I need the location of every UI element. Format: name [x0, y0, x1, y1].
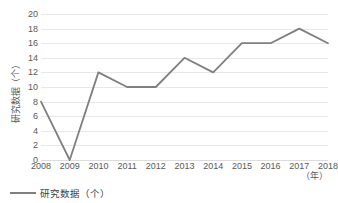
x-axis-tick-label: 2015	[232, 162, 252, 171]
y-axis-tick-label: 6	[20, 112, 38, 121]
series-line-research-data	[41, 29, 328, 160]
y-axis-tick-label: 10	[20, 83, 38, 92]
y-axis-tick-label: 2	[20, 141, 38, 150]
plot-area	[41, 14, 328, 160]
x-axis-tick-label: 2013	[174, 162, 194, 171]
x-axis-tick-label: 2008	[31, 162, 51, 171]
series-line-layer	[41, 14, 328, 160]
y-axis-tick-labels: 20181614121086420	[20, 14, 38, 160]
legend: 研究数据（个）	[10, 189, 110, 199]
legend-item-label: 研究数据（个）	[40, 189, 110, 199]
y-axis-tick-label: 18	[20, 24, 38, 33]
y-axis-tick-label: 16	[20, 39, 38, 48]
y-axis-tick-label: 4	[20, 126, 38, 135]
y-axis-tick-label: 12	[20, 68, 38, 77]
x-axis-tick-label: 2009	[60, 162, 80, 171]
x-axis-tick-labels: 2008200920102011201220132014201520162017…	[41, 162, 328, 174]
y-axis-tick-label: 14	[20, 53, 38, 62]
y-axis-tick-label: 8	[20, 97, 38, 106]
x-axis-tick-label: 2014	[203, 162, 223, 171]
x-axis-tick-label: 2018	[318, 162, 338, 171]
x-axis-tick-label: 2016	[261, 162, 281, 171]
x-axis-unit-label: （年）	[301, 172, 328, 181]
x-axis-tick-label: 2017	[289, 162, 309, 171]
legend-line-marker	[10, 192, 36, 194]
y-axis-tick-label: 20	[20, 10, 38, 19]
x-axis-tick-label: 2012	[146, 162, 166, 171]
x-axis-tick-label: 2011	[117, 162, 136, 171]
x-axis-tick-label: 2010	[88, 162, 108, 171]
